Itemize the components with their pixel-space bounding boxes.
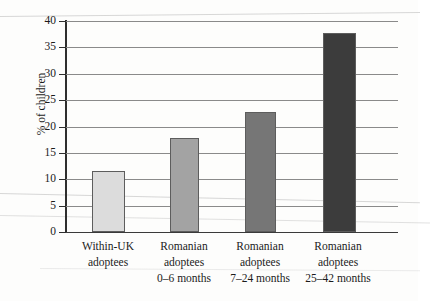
x-axis-label-line: adoptees	[218, 254, 302, 270]
y-axis-tick-label: 0	[18, 226, 56, 238]
bar	[323, 33, 356, 232]
y-axis-tick	[59, 179, 66, 180]
y-axis-tick	[59, 232, 66, 233]
y-axis-tick	[59, 100, 66, 101]
y-axis-ticks: 0510152025303540	[0, 0, 56, 301]
x-axis-label-line: Romanian	[218, 238, 302, 254]
y-axis-tick	[59, 153, 66, 154]
x-axis-label-line: 0–6 months	[142, 270, 226, 286]
x-axis-label-line: Romanian	[296, 238, 380, 254]
x-axis-category-label: Romanianadoptees25–42 months	[296, 238, 380, 286]
x-axis-label-line: 7–24 months	[218, 270, 302, 286]
x-axis-label-line: adoptees	[296, 254, 380, 270]
x-axis-label-line: Romanian	[142, 238, 226, 254]
y-axis-tick	[59, 21, 66, 22]
x-axis-label-line: 25–42 months	[296, 270, 380, 286]
x-axis-labels: Within-UKadopteesRomanianadoptees0–6 mon…	[66, 238, 402, 300]
y-axis-tick	[59, 47, 66, 48]
bar	[92, 171, 125, 232]
y-axis-tick	[59, 206, 66, 207]
x-axis-category-label: Within-UKadoptees	[66, 238, 150, 270]
y-axis-tick	[59, 74, 66, 75]
y-axis-tick-label: 10	[18, 173, 56, 185]
x-axis-label-line: adoptees	[142, 254, 226, 270]
y-axis-title: % of children	[35, 44, 47, 164]
x-axis-label-line: Within-UK	[66, 238, 150, 254]
plot-area	[66, 21, 398, 232]
bar	[170, 138, 199, 232]
scan-artifact-line	[0, 12, 420, 17]
y-axis-tick	[59, 127, 66, 128]
x-axis-label-line: adoptees	[66, 254, 150, 270]
y-axis-tick-label: 5	[18, 200, 56, 212]
bar	[245, 112, 276, 232]
x-axis-category-label: Romanianadoptees0–6 months	[142, 238, 226, 286]
gridline	[66, 21, 398, 22]
x-axis-category-label: Romanianadoptees7–24 months	[218, 238, 302, 286]
x-axis-baseline	[66, 232, 398, 233]
y-axis-tick-label: 40	[18, 15, 56, 27]
